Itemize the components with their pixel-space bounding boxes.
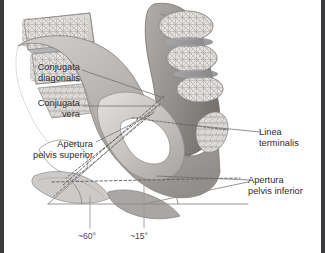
anatomy-figure: Conjugata diagonalis Conjugata vera Aper…	[0, 0, 325, 253]
label-apertura-pelvis-superior-line2: pelvis superior	[5, 150, 93, 161]
label-conjugata-diagonalis: Conjugata diagonalis	[8, 62, 80, 84]
label-linea-terminalis: Linea terminalis	[259, 127, 321, 149]
label-apertura-pelvis-superior: Apertura pelvis superior	[5, 139, 93, 161]
label-apertura-pelvis-inferior: Apertura pelvis inferior	[248, 175, 324, 197]
label-apertura-pelvis-inferior-line2: pelvis inferior	[248, 186, 324, 197]
angle-label-15: ~15°	[130, 231, 148, 241]
intervertebral-disc-lower	[174, 69, 218, 78]
label-conjugata-vera: Conjugata vera	[8, 98, 80, 120]
label-apertura-pelvis-superior-line1: Apertura	[5, 139, 93, 150]
label-linea-terminalis-line1: Linea	[259, 127, 321, 138]
label-conjugata-diagonalis-line2: diagonalis	[8, 73, 80, 84]
label-apertura-pelvis-inferior-line1: Apertura	[248, 175, 324, 186]
label-conjugata-diagonalis-line1: Conjugata	[8, 62, 80, 73]
label-linea-terminalis-line2: terminalis	[259, 138, 321, 149]
frame-border-right	[321, 0, 325, 253]
label-conjugata-vera-line1: Conjugata	[8, 98, 80, 109]
label-conjugata-vera-line2: vera	[8, 109, 80, 120]
angle-label-60: ~60°	[78, 231, 96, 241]
intervertebral-disc-upper	[165, 37, 213, 47]
pubic-symphysis	[32, 172, 110, 204]
